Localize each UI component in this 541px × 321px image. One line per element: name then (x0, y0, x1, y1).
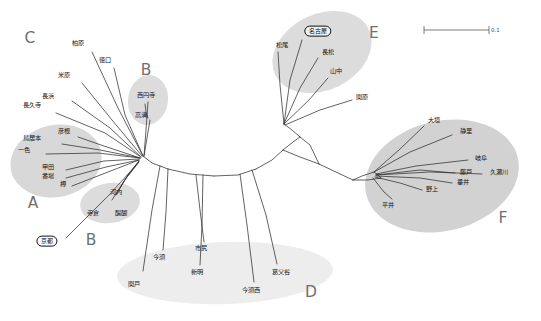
tip-label-kashiwabara: 柏原 (72, 40, 84, 46)
cluster-letter-b-bottom: B (86, 231, 97, 249)
cluster-b-bottom-ellipse (78, 179, 143, 227)
tip-label-gifu: 岐阜 (475, 155, 487, 161)
tip-label-nogami: 野上 (426, 186, 438, 192)
tip-label-kuzeri: 久瀬川 (490, 169, 509, 175)
tip-label-imasunishi: 今須西 (242, 287, 261, 293)
tip-label-bamba: 番場 (42, 173, 54, 179)
cluster-ellipse-group (4, 0, 531, 308)
tip-label-daigo: 醍醐 (115, 210, 127, 216)
tip-label-sekigado: 関戸 (128, 281, 140, 287)
cluster-letter-c: C (25, 29, 36, 47)
phylogenetic-network-svg (0, 0, 541, 321)
tip-label-toriimoto: 鳥居本 (23, 135, 42, 141)
cluster-b-top-ellipse (125, 72, 172, 127)
tip-label-kyoto: 京都 (36, 236, 57, 247)
tip-label-teragura: 寺倉 (87, 210, 99, 216)
cluster-letter-b-top: B (141, 61, 152, 79)
tip-label-fujie: 藤戸 (460, 169, 472, 175)
scale-bar-label: 0.1 (491, 27, 500, 33)
tip-label-nagoya: 名古屋 (304, 26, 331, 37)
tip-label-kuzuchidani: 葛父谷 (272, 269, 291, 275)
tip-label-takamizo: 高溝 (135, 112, 147, 118)
cluster-letter-d: D (305, 283, 317, 301)
backbone-edges (143, 124, 381, 180)
cluster-letter-a: A (28, 194, 39, 212)
tip-label-shizusato: 静里 (460, 128, 472, 134)
cluster-letter-f: F (499, 209, 508, 227)
tip-label-nagahama: 長浜 (42, 93, 54, 99)
tip-label-tokuguchi: 徳口 (99, 57, 111, 63)
tip-label-taru: 樽 (60, 181, 66, 187)
cluster-letter-e: E (369, 24, 379, 42)
tip-label-matsuo: 松尾 (276, 42, 288, 48)
tip-label-tarui: 垂井 (457, 179, 469, 185)
tip-label-hirai: 平井 (382, 202, 394, 208)
tip-label-hikone: 彦根 (58, 128, 70, 134)
tip-label-saienji: 西円寺 (137, 92, 156, 98)
tip-label-ichijiri: 市尻 (195, 245, 207, 251)
tip-label-yamanaka: 山中 (330, 68, 342, 74)
tip-label-nagamatsu: 長松 (322, 49, 334, 55)
cluster-d-ellipse (116, 238, 334, 308)
tip-label-ogaki: 大垣 (428, 117, 440, 123)
tip-label-sekigahara: 関原 (356, 94, 368, 100)
tip-label-imasu: 今須 (153, 254, 165, 260)
tip-label-chokyuji: 長久寺 (23, 102, 42, 108)
tip-label-maibara: 米原 (58, 72, 70, 78)
tip-label-koda: 甲田 (42, 164, 54, 170)
tip-label-shinmei: 新明 (191, 269, 203, 275)
scale-bar (424, 26, 489, 34)
tip-label-isshiki: 一色 (18, 147, 30, 153)
network-diagram-canvas: 0.1 C B A B D E F 柏原 徳口 米原 長浜 長久寺 彦根 鳥居本… (0, 0, 541, 321)
tip-label-kawachi: 河内 (110, 189, 122, 195)
